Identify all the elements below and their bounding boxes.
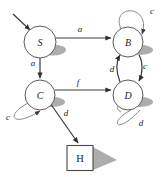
edge-label-b-d: c [143, 61, 147, 71]
node-label-b: B [125, 37, 131, 48]
edge-b-d[interactable] [139, 55, 142, 81]
state-diagram-canvas: S B C D H a a f d c d c c d [0, 0, 164, 177]
node-label-c: C [37, 90, 44, 101]
edge-label-s-b: a [78, 24, 83, 34]
edge-label-s-c: a [31, 58, 36, 68]
state-diagram-svg: S B C D H a a f d c d c c d [0, 0, 164, 177]
edge-label-self-c: c [6, 112, 10, 122]
edge-label-d-b: d [110, 64, 115, 74]
node-label-h: H [76, 153, 84, 164]
edge-label-c-d: f [77, 77, 81, 87]
edge-label-c-h: d [64, 108, 69, 118]
shadow-h [93, 147, 117, 170]
start-arrow [13, 14, 30, 30]
node-label-s: S [38, 37, 43, 48]
edge-label-self-d: d [139, 118, 144, 128]
nodes: S B C D H [24, 26, 143, 171]
edge-d-b[interactable] [117, 55, 120, 82]
edge-label-self-b: c [150, 6, 154, 16]
node-label-d: D [123, 90, 132, 101]
